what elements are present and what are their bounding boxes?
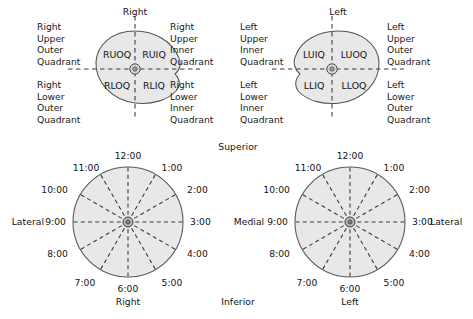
left-clock-hour-1: 1:00 (384, 162, 405, 173)
left-clock-svg (0, 0, 473, 319)
left-clock-hour-10: 10:00 (263, 184, 290, 195)
left-clock-hour-8: 8:00 (269, 248, 290, 259)
left-clock-hour-2: 2:00 (409, 184, 430, 195)
left-clock-hour-4: 4:00 (409, 248, 430, 259)
figure-canvas: Right RUOQ RUIQ RLOQ RLIQ Right Upper Ou… (0, 0, 473, 319)
left-clock-nipple-center-icon (348, 220, 352, 224)
left-clock-hour-7: 7:00 (297, 277, 318, 288)
left-clock-hour-12: 12:00 (337, 150, 364, 161)
left-clock-hour-9: 9:00 (267, 216, 288, 227)
left-clock-caption: Left (341, 296, 359, 307)
left-clock-hour-11: 11:00 (295, 162, 322, 173)
left-clock-hour-6: 6:00 (340, 283, 361, 294)
left-clock-hour-5: 5:00 (384, 277, 405, 288)
left-clock-hour-3: 3:00 (412, 216, 433, 227)
